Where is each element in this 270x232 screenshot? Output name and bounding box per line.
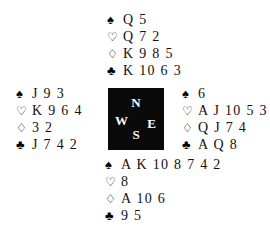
east-diamond-ranks: Q J 7 4 xyxy=(195,119,247,136)
club-icon: ♣ xyxy=(16,136,29,153)
east-spade-ranks: 6 xyxy=(195,85,206,102)
north-spade-row: ♠ Q 5 xyxy=(107,11,182,28)
spade-icon: ♠ xyxy=(182,85,195,102)
south-spade-row: ♠ A K 10 8 7 4 2 xyxy=(105,156,222,173)
south-heart-ranks: 8 xyxy=(118,173,129,190)
east-club-row: ♣ A Q 8 xyxy=(182,136,268,153)
heart-icon: ♡ xyxy=(182,103,195,120)
north-heart-ranks: Q 7 2 xyxy=(120,28,161,45)
hand-east: ♠ 6 ♡ A J 10 5 3 ♢ Q J 7 4 ♣ A Q 8 xyxy=(182,85,268,153)
compass-label-west: W xyxy=(115,114,128,127)
north-spade-ranks: Q 5 xyxy=(120,11,148,28)
north-diamond-row: ♢ K 9 8 5 xyxy=(107,45,182,62)
west-club-ranks: J 7 4 2 xyxy=(29,136,78,153)
heart-icon: ♡ xyxy=(105,174,118,191)
east-club-ranks: A Q 8 xyxy=(195,136,238,153)
diamond-icon: ♢ xyxy=(107,46,120,63)
south-diamond-ranks: A 10 6 xyxy=(118,190,166,207)
heart-icon: ♡ xyxy=(107,29,120,46)
east-heart-row: ♡ A J 10 5 3 xyxy=(182,102,268,119)
west-diamond-ranks: 3 2 xyxy=(29,119,53,136)
east-heart-ranks: A J 10 5 3 xyxy=(195,102,268,119)
club-icon: ♣ xyxy=(182,136,195,153)
south-club-row: ♣ 9 5 xyxy=(105,207,222,224)
west-heart-ranks: K 9 6 4 xyxy=(29,102,83,119)
north-heart-row: ♡ Q 7 2 xyxy=(107,28,182,45)
west-spade-row: ♠ J 9 3 xyxy=(16,85,83,102)
west-diamond-row: ♢ 3 2 xyxy=(16,119,83,136)
north-diamond-ranks: K 9 8 5 xyxy=(120,45,174,62)
heart-icon: ♡ xyxy=(16,103,29,120)
club-icon: ♣ xyxy=(105,207,118,224)
spade-icon: ♠ xyxy=(105,156,118,173)
hand-north: ♠ Q 5 ♡ Q 7 2 ♢ K 9 8 5 ♣ K 10 6 3 xyxy=(107,11,182,79)
south-heart-row: ♡ 8 xyxy=(105,173,222,190)
east-spade-row: ♠ 6 xyxy=(182,85,268,102)
hand-west: ♠ J 9 3 ♡ K 9 6 4 ♢ 3 2 ♣ J 7 4 2 xyxy=(16,85,83,153)
hand-south: ♠ A K 10 8 7 4 2 ♡ 8 ♢ A 10 6 ♣ 9 5 xyxy=(105,156,222,224)
east-diamond-row: ♢ Q J 7 4 xyxy=(182,119,268,136)
south-spade-ranks: A K 10 8 7 4 2 xyxy=(118,156,222,173)
spade-icon: ♠ xyxy=(107,11,120,28)
compass-label-south: S xyxy=(108,128,164,141)
club-icon: ♣ xyxy=(107,62,120,79)
bridge-deal-diagram: ♠ Q 5 ♡ Q 7 2 ♢ K 9 8 5 ♣ K 10 6 3 ♠ J 9… xyxy=(0,0,270,232)
spade-icon: ♠ xyxy=(16,85,29,102)
diamond-icon: ♢ xyxy=(182,120,195,137)
north-club-row: ♣ K 10 6 3 xyxy=(107,62,182,79)
north-club-ranks: K 10 6 3 xyxy=(120,62,182,79)
south-diamond-row: ♢ A 10 6 xyxy=(105,190,222,207)
south-club-ranks: 9 5 xyxy=(118,207,142,224)
compass-box: N W E S xyxy=(108,88,164,150)
diamond-icon: ♢ xyxy=(16,120,29,137)
west-club-row: ♣ J 7 4 2 xyxy=(16,136,83,153)
diamond-icon: ♢ xyxy=(105,191,118,208)
compass-label-north: N xyxy=(108,96,164,109)
west-spade-ranks: J 9 3 xyxy=(29,85,65,102)
west-heart-row: ♡ K 9 6 4 xyxy=(16,102,83,119)
